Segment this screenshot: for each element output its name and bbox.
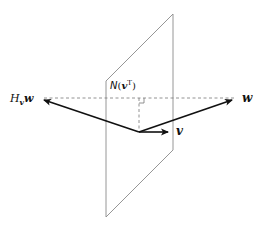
w-label: w: [242, 92, 252, 104]
right-angle-marker: [139, 98, 144, 103]
vector-hvw: [44, 100, 139, 132]
v-label: v: [176, 125, 183, 137]
plane-label: N(vT): [110, 80, 136, 91]
householder-diagram: [0, 0, 262, 227]
hvw-label: Hvw: [10, 93, 34, 107]
vector-w: [139, 100, 232, 132]
hyperplane: [106, 14, 173, 217]
